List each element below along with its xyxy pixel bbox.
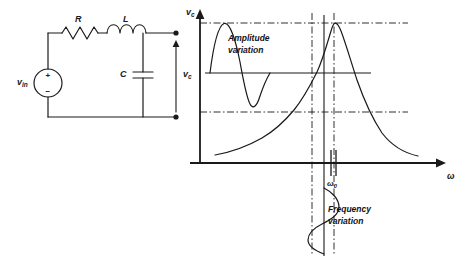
chart-x-axis: [190, 159, 446, 168]
frequency-variation-annotation: Frequency variation: [328, 203, 371, 228]
output-voltage-arrowhead: [173, 40, 180, 47]
frequency-variation-line1: Frequency: [328, 203, 371, 215]
source-minus-sign: −: [46, 88, 51, 96]
circuit-schematic: [34, 25, 179, 120]
source-plus-sign: +: [46, 72, 51, 80]
output-terminal-top: [173, 30, 178, 35]
resistor-label: R: [75, 15, 82, 24]
capacitor-label: C: [120, 70, 127, 79]
inductor-symbol: [107, 25, 146, 33]
rlc-resonance-figure: vin + − R L C vc vc ω ω0 Amplitude varia…: [0, 0, 460, 263]
source-label: vin: [17, 78, 28, 89]
output-voltage-label: vc: [183, 70, 192, 81]
capacitor-symbol: [133, 72, 153, 78]
resonance-frequency-label: ω0: [327, 180, 337, 190]
chart-y-axis-label: vc: [186, 8, 195, 19]
resistor-symbol: [62, 27, 98, 39]
output-terminal-bottom: [173, 114, 178, 119]
inductor-label: L: [123, 15, 129, 24]
frequency-variation-line2: variation: [328, 215, 371, 227]
chart-x-axis-label: ω: [447, 172, 455, 181]
amplitude-variation-line2: variation: [228, 44, 270, 56]
chart-y-axis: [196, 9, 205, 163]
amplitude-variation-line1: Amplitude: [228, 32, 270, 44]
amplitude-variation-annotation: Amplitude variation: [228, 32, 270, 57]
